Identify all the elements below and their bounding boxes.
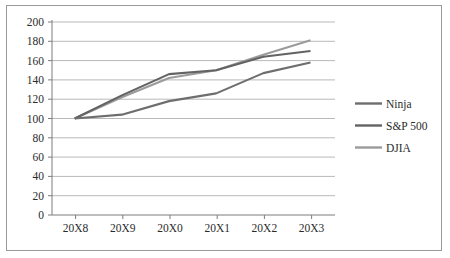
xtick-label: 20X2 — [252, 222, 278, 234]
y-axis-labels: 200 180 160 140 120 100 80 60 40 20 0 — [27, 16, 45, 221]
line-chart: 200 180 160 140 120 100 80 60 40 20 0 20… — [0, 0, 450, 258]
x-tick-marks — [76, 215, 312, 219]
ytick-label: 100 — [27, 113, 45, 125]
xtick-label: 20X9 — [110, 222, 136, 234]
ytick-label: 0 — [38, 209, 44, 221]
ytick-label: 160 — [27, 55, 45, 67]
chart-screenshot: 200 180 160 140 120 100 80 60 40 20 0 20… — [0, 0, 450, 258]
ytick-label: 80 — [33, 132, 45, 144]
y-tick-marks — [48, 22, 52, 215]
ytick-label: 120 — [27, 93, 45, 105]
xtick-label: 20X8 — [63, 222, 89, 234]
x-axis-labels: 20X8 20X9 20X0 20X1 20X2 20X3 — [63, 222, 325, 234]
xtick-label: 20X1 — [204, 222, 230, 234]
xtick-label: 20X3 — [299, 222, 325, 234]
legend-label-djia: DJIA — [386, 142, 412, 154]
ytick-label: 140 — [27, 74, 45, 86]
ytick-label: 20 — [33, 190, 45, 202]
ytick-label: 40 — [33, 170, 45, 182]
ytick-label: 60 — [33, 151, 45, 163]
ytick-label: 200 — [27, 16, 45, 28]
legend-label-sp500: S&P 500 — [386, 120, 428, 132]
legend: Ninja S&P 500 DJIA — [355, 98, 428, 154]
xtick-label: 20X0 — [157, 222, 183, 234]
ytick-label: 180 — [27, 35, 45, 47]
legend-label-ninja: Ninja — [386, 98, 412, 111]
series-line-ninja — [75, 63, 311, 119]
